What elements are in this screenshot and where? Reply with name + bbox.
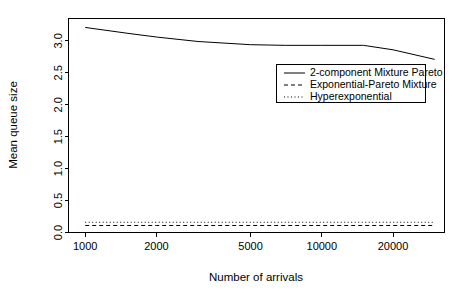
x-axis-title: Number of arrivals <box>209 271 303 283</box>
y-tick-label: 1.0 <box>52 161 64 176</box>
x-tick-label: 5000 <box>238 240 262 252</box>
y-tick-label: 1.5 <box>52 129 64 144</box>
legend-label-2: Hyperexponential <box>310 90 392 102</box>
y-tick-label: 0.5 <box>52 193 64 208</box>
y-tick-label: 0.0 <box>52 225 64 240</box>
legend-label-0: 2-component Mixture Pareto <box>310 66 443 78</box>
x-tick-label: 1000 <box>73 240 97 252</box>
mean-queue-size-line-chart: 0.00.51.01.52.02.53.0 100020005000100002… <box>0 0 464 297</box>
legend: 2-component Mixture ParetoExponential-Pa… <box>277 65 443 103</box>
y-tick-label: 3.0 <box>52 33 64 48</box>
y-tick-label: 2.0 <box>52 97 64 112</box>
y-tick-label: 2.5 <box>52 65 64 80</box>
x-tick-label: 20000 <box>378 240 409 252</box>
legend-label-1: Exponential-Pareto Mixture <box>310 78 437 90</box>
chart-container: 0.00.51.01.52.02.53.0 100020005000100002… <box>0 0 464 297</box>
x-tick-label: 10000 <box>307 240 338 252</box>
chart-background <box>0 0 464 297</box>
y-axis-title: Mean queue size <box>7 81 19 169</box>
x-tick-label: 2000 <box>144 240 168 252</box>
